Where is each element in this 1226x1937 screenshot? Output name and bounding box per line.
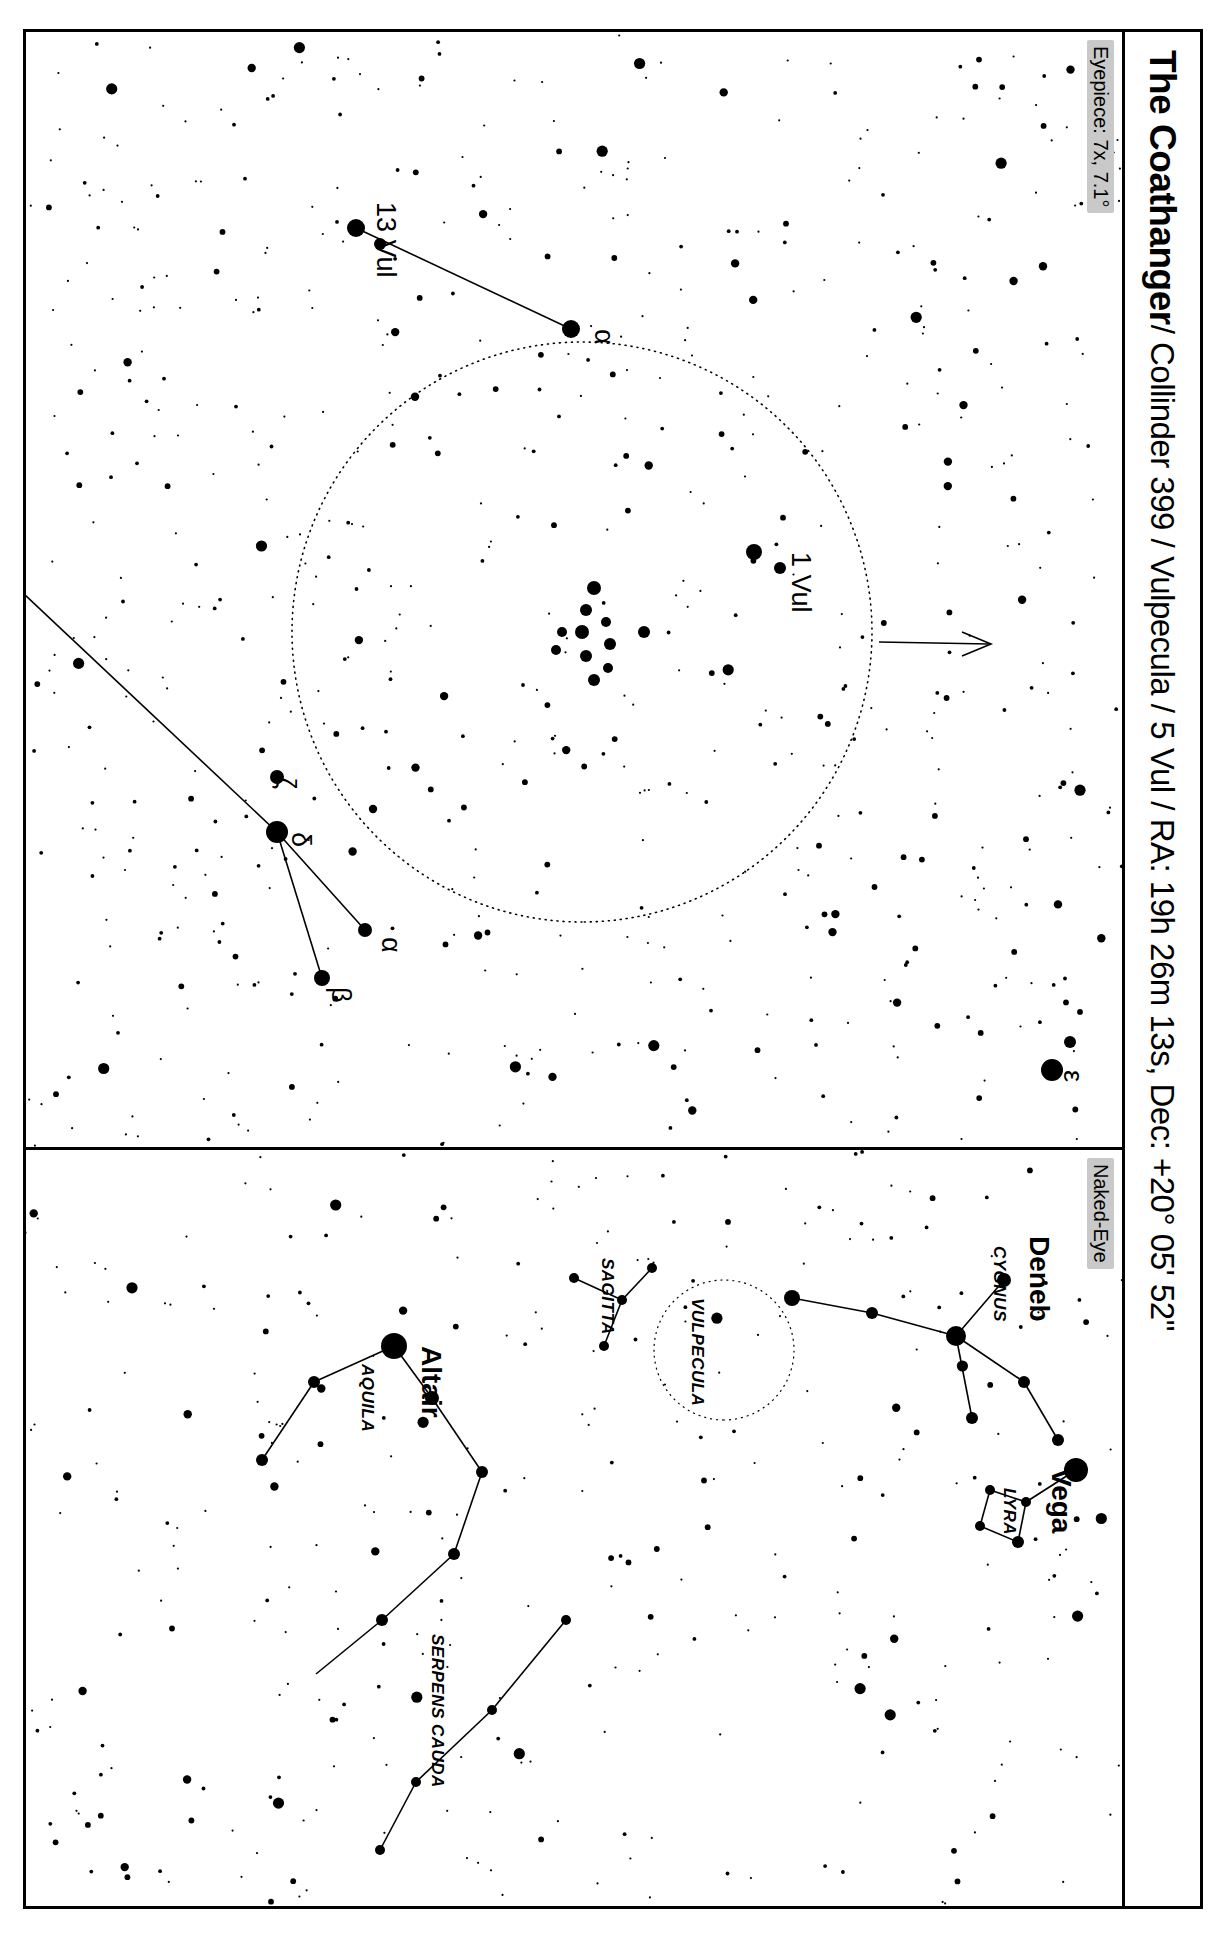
star-point [551,736,555,740]
star-point [294,42,305,53]
star-point [634,1337,638,1341]
star-point [502,763,504,765]
star-point [690,490,692,492]
star-point [480,175,482,177]
star-point [317,690,319,692]
star-point [204,1509,206,1511]
star-point [1114,707,1118,711]
star-point [270,1482,278,1490]
star-point [1093,576,1095,578]
star-point [480,502,482,504]
star-point [557,414,561,418]
star-point [40,1103,42,1105]
star-point [944,1902,946,1904]
star-point [588,1683,592,1687]
star-point [926,730,928,732]
star-point [909,1290,911,1292]
star-point [131,1115,133,1117]
star-point [1061,780,1067,786]
star-point [937,392,939,394]
star-point [648,1040,659,1051]
named-star [601,617,611,627]
star-point [735,229,739,233]
star-point [583,186,585,188]
star-point [916,1348,918,1350]
star-point [1086,444,1090,448]
star-point [484,969,486,971]
star-point [606,528,608,530]
star-point [805,925,809,929]
star-point [720,88,728,96]
star-point [153,306,155,308]
star-point [914,1429,920,1435]
star-point [298,1895,300,1897]
star-label: δ [286,832,316,847]
naked-eye-panel: Naked-Eye [26,1150,1122,1906]
star-point [328,519,330,521]
star-point [723,664,734,675]
star-point [99,1772,103,1776]
star-point [73,636,75,638]
star-point [885,1709,896,1720]
star-point [1027,1167,1033,1173]
star-point [357,450,359,452]
star-point [78,1686,86,1694]
star-point [39,850,43,854]
star-point [1005,976,1007,978]
star-point [714,749,716,751]
star-point [351,523,353,525]
star-point [391,926,395,930]
star-point [213,1307,215,1309]
star-point [235,298,237,300]
star-point [719,431,725,437]
star-point [112,297,114,299]
star-point [1063,976,1067,980]
star-point [364,1504,366,1506]
star-point [451,291,455,295]
star-point [632,703,634,705]
star-point [828,927,836,935]
star-point [162,104,164,106]
star-point [889,1236,893,1240]
star-point [152,720,154,722]
star-point [273,1797,284,1808]
star-point [623,694,625,696]
star-point [268,1421,270,1423]
star-point [809,1018,813,1022]
star-point [931,259,937,265]
star-point [918,423,920,425]
star-point [578,1185,580,1187]
star-point [935,1699,937,1701]
star-point [98,1812,104,1818]
star-point [699,589,701,591]
star-point [823,1864,827,1868]
star-point [283,415,285,417]
star-point [846,1648,848,1650]
naked-eye-constellation-lines [262,1268,1076,1850]
star-point [600,170,602,172]
star-point [371,1547,379,1555]
star-point [597,145,608,156]
star-point [734,613,738,617]
star-point [76,482,82,488]
star-point [472,183,476,187]
star-point [902,424,908,430]
star-point [137,228,139,230]
star-point [1054,900,1062,908]
star-point [595,1177,597,1179]
star-point [938,367,942,371]
star-point [779,1315,781,1317]
star-point [270,444,274,448]
star-point [810,976,812,978]
star-point [684,1305,688,1309]
star-point [85,1822,91,1828]
star-point [976,56,982,62]
star-point [758,722,762,726]
star-point [52,308,54,310]
star-point [76,980,80,984]
star-point [82,827,84,829]
chart-title-bar: The Coathanger / Collinder 399 / Vulpecu… [1122,32,1200,1906]
named-star [746,544,762,560]
star-point [516,514,520,518]
star-point [765,709,767,711]
